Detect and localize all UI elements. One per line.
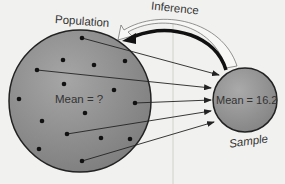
inference-diagram: [0, 0, 285, 184]
sample-mean-label: Mean = 16.2: [216, 94, 277, 106]
population-mean-label: Mean = ?: [55, 93, 103, 105]
